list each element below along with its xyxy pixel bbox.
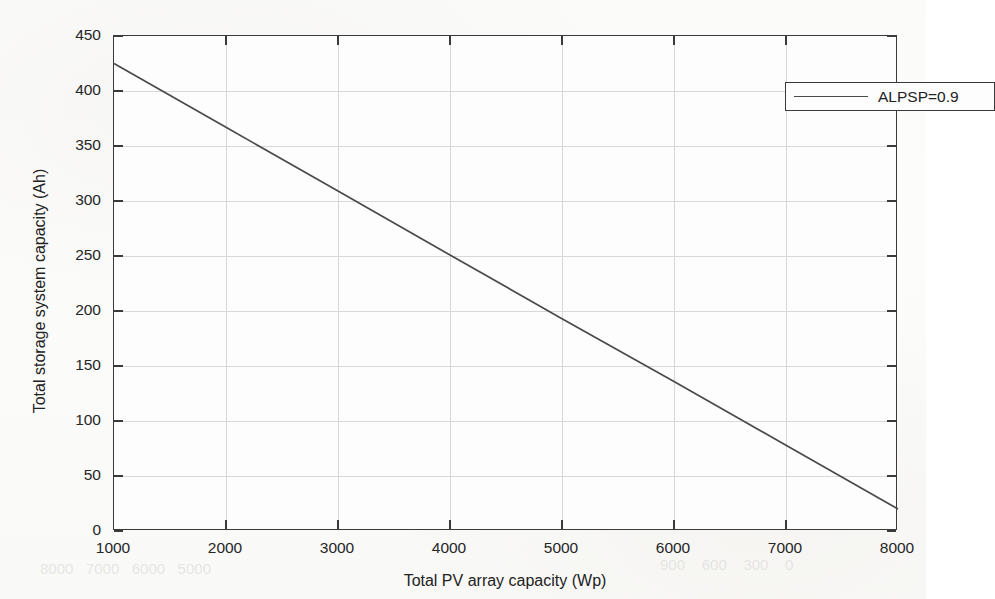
series-line-alpsp-0-9 <box>114 64 898 510</box>
y-tick-label: 200 <box>1 301 101 319</box>
x-tick-label: 4000 <box>432 539 466 557</box>
scan-artifact: 900 600 300 0 <box>660 556 793 573</box>
y-tick-label: 150 <box>1 356 101 374</box>
y-tick-label: 0 <box>1 521 101 539</box>
y-tick-label: 400 <box>1 81 101 99</box>
y-tick-label: 300 <box>1 191 101 209</box>
legend-label: ALPSP=0.9 <box>878 88 959 106</box>
plot-area: ALPSP=0.9 <box>113 35 897 530</box>
x-tick-label: 6000 <box>656 539 690 557</box>
x-axis-title: Total PV array capacity (Wp) <box>113 572 897 590</box>
y-tick-label: 350 <box>1 136 101 154</box>
y-tick-label: 250 <box>1 246 101 264</box>
x-tick-label: 7000 <box>768 539 802 557</box>
y-tick-label: 450 <box>1 26 101 44</box>
series-layer <box>114 36 898 531</box>
x-tick-label: 8000 <box>880 539 914 557</box>
x-tick-label: 1000 <box>96 539 130 557</box>
legend-line-sample <box>794 96 868 98</box>
x-tick-label: 2000 <box>208 539 242 557</box>
y-tick-label: 100 <box>1 411 101 429</box>
y-tick-label: 50 <box>1 466 101 484</box>
x-tick-label: 3000 <box>320 539 354 557</box>
legend: ALPSP=0.9 <box>785 82 995 111</box>
x-tick-label: 5000 <box>544 539 578 557</box>
